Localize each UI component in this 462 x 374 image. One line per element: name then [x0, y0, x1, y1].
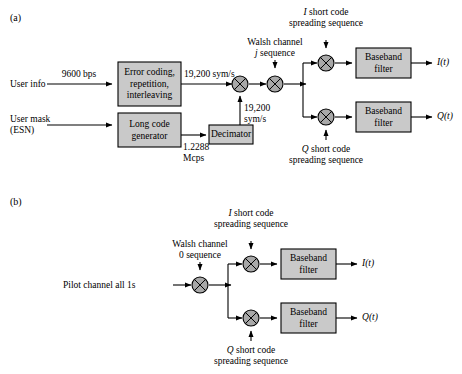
baseband-q-line1-a: Baseband	[365, 106, 402, 118]
error-coding-line2: repetition,	[124, 78, 175, 90]
output-q-rest-a: (t)	[444, 111, 453, 121]
q-short-code-line1-a: Q short code	[302, 144, 351, 155]
output-q-italic-a: Q	[437, 111, 444, 121]
input-user-mask-label-line2: (ESN)	[10, 125, 34, 136]
q-short-code-italic-a: Q	[302, 144, 309, 154]
walsh-j-rest: sequence	[258, 48, 295, 58]
output-q-t-b: Q(t)	[362, 312, 378, 323]
baseband-q-line2-a: filter	[365, 117, 402, 129]
output-i-rest-a: (t)	[440, 57, 449, 67]
baseband-filter-q-text-a: Baseband filter	[365, 106, 402, 129]
long-code-generator-block-text: Long code generator	[129, 119, 169, 142]
baseband-i-line2-b: filter	[290, 264, 327, 276]
i-short-code-line1-a: I short code	[304, 7, 349, 18]
input-pilot-channel-label: Pilot channel all 1s	[63, 280, 136, 291]
i-short-code-line2-b: spreading sequence	[214, 219, 288, 230]
baseband-q-line1-b: Baseband	[290, 307, 327, 319]
q-short-code-rest-a: short code	[309, 144, 351, 154]
output-i-rest-b: (t)	[365, 258, 374, 268]
baseband-filter-i-text-a: Baseband filter	[365, 52, 402, 75]
multiplier-i-short-code-a	[318, 55, 334, 71]
output-i-t-b: I(t)	[362, 258, 374, 269]
i-short-code-rest-b: short code	[232, 208, 274, 218]
baseband-q-line2-b: filter	[290, 318, 327, 330]
multiplier-q-short-code-b	[243, 310, 259, 326]
panel-b-tag: (b)	[10, 196, 22, 207]
walsh-channel-0-line1: Walsh channel	[172, 239, 227, 250]
q-short-code-rest-b: short code	[234, 345, 276, 355]
multiplier-walsh-b	[192, 277, 208, 293]
baseband-i-line1-b: Baseband	[290, 253, 327, 265]
q-short-code-italic-b: Q	[227, 345, 234, 355]
rate-9600-bps-label: 9600 bps	[62, 69, 97, 80]
baseband-i-line2-a: filter	[365, 63, 402, 75]
baseband-filter-i-text-b: Baseband filter	[290, 253, 327, 276]
decimator-block-text: Decimator	[211, 129, 251, 141]
output-q-italic-b: Q	[362, 312, 369, 322]
error-coding-line1: Error coding,	[124, 67, 175, 79]
input-user-info-label: User info	[10, 79, 46, 90]
rate-19200-mid-line1: 19,200	[244, 103, 270, 114]
long-code-line2: generator	[129, 130, 169, 142]
panel-a-tag: (a)	[10, 12, 21, 23]
rate-mcps-line2: Mcps	[183, 153, 204, 164]
rate-19200-mid-line2: sym/s	[244, 114, 266, 125]
baseband-filter-q-text-b: Baseband filter	[290, 307, 327, 330]
input-user-mask-label-line1: User mask	[10, 114, 50, 125]
i-short-code-line1-b: I short code	[229, 208, 274, 219]
i-short-code-rest-a: short code	[307, 7, 349, 17]
multiplier-q-short-code-a	[318, 109, 334, 125]
output-q-rest-b: (t)	[369, 312, 378, 322]
figure-canvas: (a) User info User mask (ESN) 9600 bps 1…	[0, 0, 462, 374]
q-short-code-line1-b: Q short code	[227, 345, 276, 356]
multiplier-i-short-code-b	[243, 256, 259, 272]
rate-mcps-line1: 1.2288	[183, 142, 209, 153]
error-coding-block-text: Error coding, repetition, interleaving	[124, 67, 175, 102]
q-short-code-line2-b: spreading sequence	[214, 356, 288, 367]
multiplier-walsh-a	[267, 76, 283, 92]
walsh-channel-j-line2: j sequence	[255, 48, 295, 59]
i-short-code-line2-a: spreading sequence	[289, 18, 363, 29]
output-q-t-a: Q(t)	[437, 111, 453, 122]
error-coding-line3: interleaving	[124, 90, 175, 102]
rate-19200-sym-s-top-label: 19,200 sym/s	[184, 69, 235, 80]
walsh-channel-j-line1: Walsh channel	[247, 37, 302, 48]
baseband-i-line1-a: Baseband	[365, 52, 402, 64]
walsh-channel-0-line2: 0 sequence	[179, 250, 221, 261]
output-i-t-a: I(t)	[437, 57, 449, 68]
q-short-code-line2-a: spreading sequence	[289, 155, 363, 166]
long-code-line1: Long code	[129, 119, 169, 131]
